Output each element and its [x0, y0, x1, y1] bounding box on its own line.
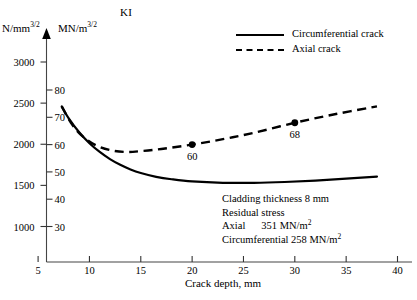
annotation-circumferential-value: 258 MN/m — [291, 234, 337, 245]
x-tick-label-15: 15 — [126, 265, 156, 276]
y-tick-label-right-80: 80 — [55, 85, 85, 96]
x-axis-ticks — [38, 256, 397, 262]
chart-figure: KI N/mm3/2 MN/m3/2 10001500200025003000 … — [0, 0, 417, 300]
x-tick-label-30: 30 — [280, 265, 310, 276]
legend-label-circumferential-crack: Circumferential crack — [292, 28, 384, 39]
x-tick-label-10: 10 — [74, 265, 104, 276]
y-tick-label-right-40: 40 — [55, 194, 85, 205]
data-point-label-68: 68 — [282, 129, 308, 140]
y-axis-arrow-icon — [42, 28, 51, 39]
y-tick-label-right-30: 30 — [55, 221, 85, 232]
annotation-circumferential-label: Circumferential — [222, 234, 288, 245]
data-point-marker-60 — [189, 141, 196, 148]
x-axis-label: Crack depth, mm — [143, 277, 303, 289]
y-tick-label-left-2500: 2500 — [0, 98, 35, 109]
y-tick-label-left-3000: 3000 — [0, 57, 35, 68]
x-tick-label-25: 25 — [228, 265, 258, 276]
y-tick-label-left-1000: 1000 — [0, 221, 35, 232]
series-line-circumferential-crack — [62, 106, 377, 183]
x-tick-label-35: 35 — [331, 265, 361, 276]
data-point-marker-68 — [291, 119, 298, 126]
annotation-axial-value-exponent: 2 — [308, 218, 312, 227]
annotation-circumferential-value-exponent: 2 — [338, 231, 342, 240]
chart-annotation-block: Cladding thickness 8 mm Residual stress … — [222, 192, 341, 246]
x-tick-label-5: 5 — [23, 265, 53, 276]
legend-swatch-solid-line-icon — [236, 34, 284, 36]
y-tick-label-right-70: 70 — [55, 112, 85, 123]
x-tick-label-20: 20 — [177, 265, 207, 276]
annotation-cladding-thickness: Cladding thickness 8 mm — [222, 192, 341, 206]
y-tick-label-left-1500: 1500 — [0, 180, 35, 191]
annotation-axial-stress: Axial351 MN/m2 — [222, 219, 341, 233]
y-tick-label-left-2000: 2000 — [0, 139, 35, 150]
y-tick-label-right-50: 50 — [55, 166, 85, 177]
legend-swatch-dashed-line-icon — [236, 49, 284, 51]
annotation-residual-stress-heading: Residual stress — [222, 206, 341, 220]
y-axis-ticks-right — [47, 90, 53, 227]
y-axis-ticks-left — [41, 62, 47, 227]
annotation-axial-value: 351 MN/m — [261, 219, 307, 233]
annotation-axial-label: Axial — [222, 220, 245, 231]
legend-label-axial-crack: Axial crack — [292, 43, 341, 54]
series-line-axial-crack — [62, 106, 377, 152]
data-point-label-60: 60 — [179, 151, 205, 162]
annotation-circumferential-stress: Circumferential 258 MN/m2 — [222, 233, 341, 247]
y-tick-label-right-60: 60 — [55, 139, 85, 150]
x-tick-label-40: 40 — [383, 265, 413, 276]
